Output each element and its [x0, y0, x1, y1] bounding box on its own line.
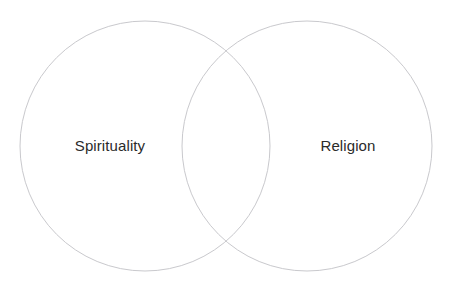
- venn-diagram: Spirituality Religion: [0, 0, 453, 285]
- venn-label-right: Religion: [321, 137, 376, 154]
- venn-diagram-canvas: Spirituality Religion: [0, 0, 453, 285]
- venn-circle-right[interactable]: [182, 21, 432, 271]
- venn-label-left: Spirituality: [75, 137, 146, 154]
